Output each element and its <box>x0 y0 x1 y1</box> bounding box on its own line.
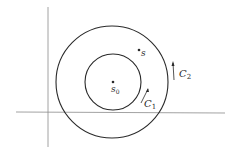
center-point-s0 <box>112 81 115 84</box>
label-s: s <box>141 48 146 58</box>
label-c1: C1 <box>144 98 156 111</box>
label-c2: C2 <box>179 68 191 81</box>
point-s <box>138 49 141 52</box>
label-s0: s0 <box>111 84 120 95</box>
contour-diagram: s0 s C1 C2 <box>0 0 236 153</box>
arrow-head-c2-icon <box>172 61 175 66</box>
arrow-head-c1-icon <box>146 88 149 92</box>
real-axis <box>16 112 225 113</box>
